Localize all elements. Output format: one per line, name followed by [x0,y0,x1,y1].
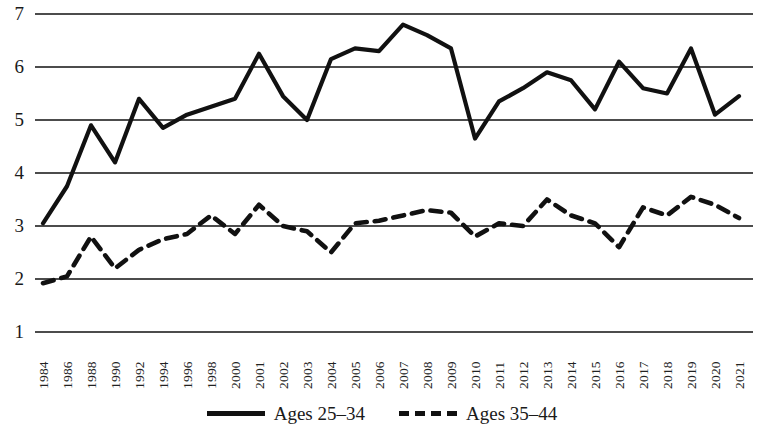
x-tick-label-1990: 1990 [109,361,123,389]
y-tick-label-2: 2 [2,269,24,288]
x-tick-label-2021: 2021 [733,361,747,389]
x-tick-label-2012: 2012 [517,361,531,389]
x-tick-label-1992: 1992 [133,361,147,389]
x-tick-label-2015: 2015 [589,361,603,389]
x-tick-label-1986: 1986 [61,361,75,389]
x-tick-label-2007: 2007 [397,361,411,389]
x-tick-label-1998: 1998 [205,361,219,389]
series-line-1 [43,197,739,283]
legend-swatch-dashed [399,411,457,416]
legend-entry-ages-25-34: Ages 25–34 [207,404,365,423]
y-tick-label-4: 4 [2,163,24,182]
x-tick-label-2003: 2003 [301,361,315,389]
legend-label-ages-35-44: Ages 35–44 [466,404,557,423]
x-tick-label-2013: 2013 [541,361,555,389]
y-tick-label-1: 1 [2,322,24,341]
legend-label-ages-25-34: Ages 25–34 [274,404,365,423]
line-chart-figure: 1234567 19841986198819901992199419961998… [0,0,764,430]
y-tick-label-5: 5 [2,110,24,129]
x-tick-label-2004: 2004 [325,361,339,389]
legend-swatch-solid [207,411,265,416]
legend-entry-ages-35-44: Ages 35–44 [399,404,557,423]
x-tick-label-2011: 2011 [493,362,507,389]
x-tick-label-2009: 2009 [445,361,459,389]
gridlines-group [35,14,753,332]
x-tick-label-2014: 2014 [565,361,579,389]
x-tick-label-2017: 2017 [637,361,651,389]
x-tick-label-1988: 1988 [85,361,99,389]
y-tick-label-3: 3 [2,216,24,235]
x-tick-label-2005: 2005 [349,361,363,389]
x-tick-label-1984: 1984 [37,361,51,389]
x-tick-label-2019: 2019 [685,361,699,389]
x-tick-label-1996: 1996 [181,361,195,389]
y-tick-label-7: 7 [2,4,24,23]
series-line-0 [43,25,739,224]
chart-legend: Ages 25–34 Ages 35–44 [0,396,764,430]
series-group [43,25,739,284]
x-tick-label-2010: 2010 [469,361,483,389]
x-tick-label-2001: 2001 [253,361,267,389]
x-tick-label-2000: 2000 [229,361,243,389]
x-tick-label-2006: 2006 [373,361,387,389]
y-tick-label-6: 6 [2,57,24,76]
x-tick-label-1994: 1994 [157,361,171,389]
x-tick-label-2002: 2002 [277,361,291,389]
x-tick-label-2018: 2018 [661,361,675,389]
x-tick-label-2020: 2020 [709,361,723,389]
x-tick-label-2016: 2016 [613,361,627,389]
x-tick-label-2008: 2008 [421,361,435,389]
